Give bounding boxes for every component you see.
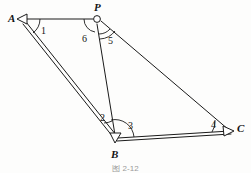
angle-label-2: 2 <box>100 113 105 123</box>
angle-arc-1 <box>33 19 40 33</box>
figure-caption: 图 2-12 <box>0 165 251 173</box>
vertex-label-P: P <box>94 2 101 13</box>
angle-label-4: 4 <box>211 120 216 130</box>
angle-label-1: 1 <box>41 26 46 36</box>
angle-label-5: 5 <box>108 36 113 46</box>
angle-label-3: 3 <box>128 121 133 131</box>
angle-arc-5 <box>99 29 110 34</box>
geometry-canvas <box>0 0 251 173</box>
vertex-marker-P <box>94 16 101 23</box>
geometry-figure: A P B C 1 2 3 4 5 6 图 2-12 <box>0 0 251 173</box>
vertex-marker-A <box>17 14 27 24</box>
vertex-label-B: B <box>111 149 118 160</box>
segment-PC <box>101 21 229 130</box>
angle-label-6: 6 <box>82 34 87 44</box>
vertex-label-A: A <box>8 13 15 24</box>
vertex-label-C: C <box>237 123 244 134</box>
angle-arc-6 <box>84 19 95 32</box>
